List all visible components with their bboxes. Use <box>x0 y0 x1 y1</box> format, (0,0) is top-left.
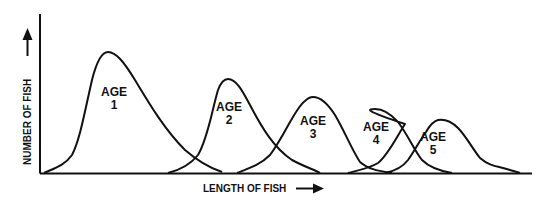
y-axis-label: NUMBER OF FISH <box>22 79 33 165</box>
curve-label-age-5: AGE <box>420 130 446 144</box>
curve-label-age-1: AGE <box>101 85 127 99</box>
x-axis-arrow-icon <box>296 184 324 194</box>
age-length-distribution-diagram: AGE 1 AGE 2 AGE 3 AGE 4 AGE 5 LENGTH OF … <box>0 0 548 201</box>
curve-label-age-3: AGE <box>300 114 326 128</box>
y-axis-arrow-icon <box>23 28 33 56</box>
curve-label-age-5-number: 5 <box>430 143 437 157</box>
curve-age-1 <box>44 52 222 173</box>
curve-label-age-2: AGE <box>216 100 242 114</box>
curve-label-age-4-number: 4 <box>373 133 380 147</box>
curve-label-age-4: AGE <box>363 120 389 134</box>
curve-label-age-3-number: 3 <box>310 127 317 141</box>
x-axis-label: LENGTH OF FISH <box>203 183 286 194</box>
curve-label-age-2-number: 2 <box>226 113 233 127</box>
curve-age-5 <box>385 120 520 173</box>
curve-age-2 <box>168 79 320 173</box>
curve-label-age-1-number: 1 <box>111 98 118 112</box>
